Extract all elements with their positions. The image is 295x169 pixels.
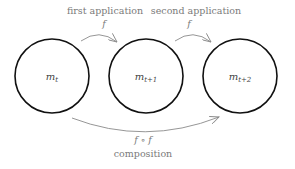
- arrow-first-application: [81, 35, 117, 42]
- node-label: mt+1: [135, 71, 158, 84]
- node-m-t-plus-2: mt+2: [203, 39, 277, 113]
- node-m-t: mt: [15, 39, 89, 113]
- edge-second-application: second application f: [151, 5, 241, 42]
- node-label: mt: [46, 71, 58, 84]
- edge-caption: first application: [67, 5, 143, 16]
- arrow-second-application: [175, 35, 211, 42]
- node-m-t-plus-1: mt+1: [109, 39, 183, 113]
- node-label: mt+2: [229, 71, 252, 84]
- edge-composition: f ∘ f composition: [72, 117, 219, 159]
- edge-symbol: f: [186, 18, 192, 29]
- edge-first-application: first application f: [67, 5, 143, 42]
- edge-caption: composition: [114, 148, 172, 159]
- edge-symbol: f: [101, 18, 107, 29]
- arrow-composition: [72, 117, 219, 132]
- edge-caption: second application: [151, 5, 241, 16]
- composition-diagram: mt mt+1 mt+2 first application f second …: [0, 0, 295, 169]
- edge-symbol: f ∘ f: [133, 134, 153, 145]
